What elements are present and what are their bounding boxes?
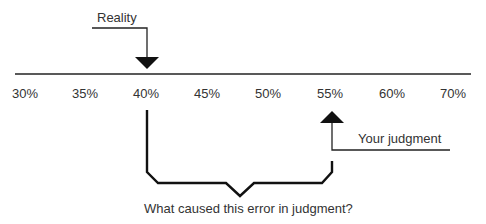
tick-70: 70% <box>440 86 466 101</box>
judgment-arrow-icon <box>320 111 344 123</box>
judgment-label: Your judgment <box>358 131 441 146</box>
tick-35: 35% <box>72 86 98 101</box>
tick-30: 30% <box>12 86 38 101</box>
tick-55: 55% <box>317 86 343 101</box>
tick-45: 45% <box>194 86 220 101</box>
error-bracket <box>147 110 332 196</box>
diagram-canvas <box>0 0 486 224</box>
tick-60: 60% <box>379 86 405 101</box>
question-label: What caused this error in judgment? <box>144 201 353 216</box>
reality-pointer-line <box>92 28 147 58</box>
reality-label: Reality <box>97 10 137 25</box>
tick-40: 40% <box>133 86 159 101</box>
tick-50: 50% <box>255 86 281 101</box>
reality-arrow-icon <box>135 57 159 69</box>
